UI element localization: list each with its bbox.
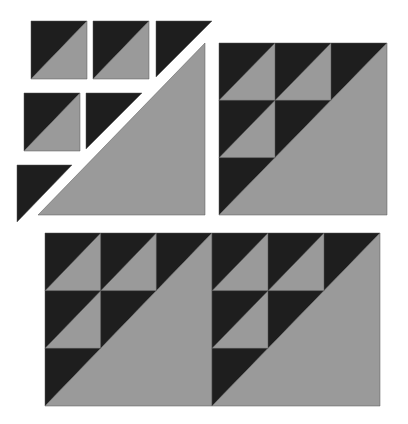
- block-row: [45, 233, 380, 406]
- quilt-diagram: [0, 0, 408, 424]
- exploded-pieces: [17, 21, 212, 222]
- assembled-block: [219, 43, 387, 215]
